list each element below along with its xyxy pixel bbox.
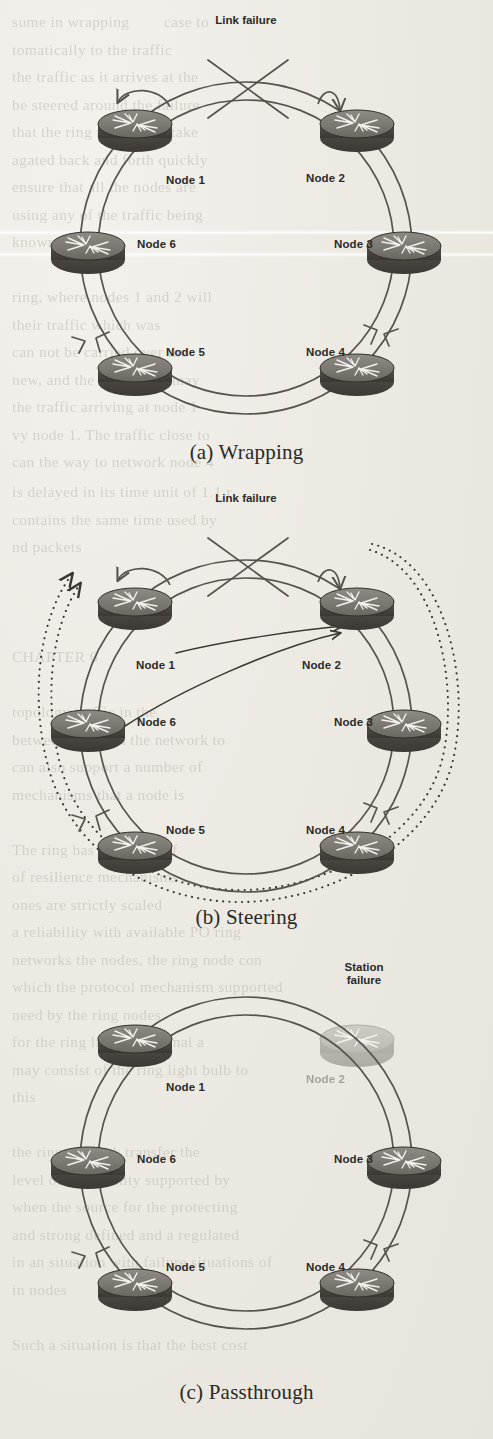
node-6-router-icon bbox=[51, 710, 125, 752]
node-1-router-icon bbox=[98, 1025, 172, 1067]
panel-steering-svg bbox=[0, 478, 493, 933]
node-label-4-a: Node 4 bbox=[306, 346, 345, 358]
caption-panel-b: (b) Steering bbox=[0, 905, 493, 930]
panel-steering: Link failure Node 1 Node 2 Node 6 Node 3… bbox=[0, 478, 493, 933]
node-2-router-icon bbox=[320, 588, 394, 630]
node-6-router-icon bbox=[51, 1147, 125, 1189]
node-label-1-a: Node 1 bbox=[166, 174, 205, 186]
node-2-router-icon-failed bbox=[320, 1025, 394, 1067]
node-5-router-icon bbox=[98, 354, 172, 396]
node-label-3-c: Node 3 bbox=[334, 1153, 373, 1165]
node-label-5-a: Node 5 bbox=[166, 346, 205, 358]
node-5-router-icon bbox=[98, 1269, 172, 1311]
panel-wrapping-svg bbox=[0, 0, 493, 470]
node-label-6-a: Node 6 bbox=[137, 238, 176, 250]
ringlet-direction-arrows bbox=[72, 325, 398, 353]
caption-panel-a: (a) Wrapping bbox=[0, 440, 493, 465]
link-failure-label-a: Link failure bbox=[183, 14, 309, 27]
node-label-2-a: Node 2 bbox=[306, 172, 345, 184]
node-4-router-icon bbox=[320, 832, 394, 874]
link-failure-cross bbox=[208, 538, 288, 596]
node-6-router-icon bbox=[51, 232, 125, 274]
node-3-router-icon bbox=[367, 1147, 441, 1189]
panel-wrapping: Link failure Node 1 Node 2 Node 6 Node 3… bbox=[0, 0, 493, 470]
node-label-6-c: Node 6 bbox=[137, 1153, 176, 1165]
node-label-4-c: Node 4 bbox=[306, 1261, 345, 1273]
panel-passthrough: Station failure Node 1 Node 2 Node 6 Nod… bbox=[0, 955, 493, 1439]
ringlet-direction-arrows bbox=[72, 1240, 398, 1268]
node-label-5-b: Node 5 bbox=[166, 824, 205, 836]
node-label-2-b: Node 2 bbox=[302, 659, 341, 671]
ringlet-direction-arrows bbox=[72, 803, 398, 831]
node-label-6-b: Node 6 bbox=[137, 716, 176, 728]
node-1-router-icon bbox=[98, 110, 172, 152]
node-3-router-icon bbox=[367, 232, 441, 274]
node-4-router-icon bbox=[320, 1269, 394, 1311]
steered-chord-arrows bbox=[122, 626, 342, 728]
node-5-router-icon bbox=[98, 832, 172, 874]
node-label-4-b: Node 4 bbox=[306, 824, 345, 836]
node-label-3-a: Node 3 bbox=[334, 238, 373, 250]
node-label-5-c: Node 5 bbox=[166, 1261, 205, 1273]
panel-passthrough-svg bbox=[0, 955, 493, 1439]
node-label-3-b: Node 3 bbox=[334, 716, 373, 728]
node-label-2-c: Node 2 bbox=[306, 1073, 345, 1085]
link-failure-label-b: Link failure bbox=[183, 492, 309, 505]
node-3-router-icon bbox=[367, 710, 441, 752]
node-4-router-icon bbox=[320, 354, 394, 396]
node-1-router-icon bbox=[98, 588, 172, 630]
caption-panel-c: (c) Passthrough bbox=[0, 1380, 493, 1405]
link-failure-cross bbox=[208, 60, 288, 118]
station-failure-label-c: Station failure bbox=[318, 961, 410, 987]
node-label-1-c: Node 1 bbox=[166, 1081, 205, 1093]
node-2-router-icon bbox=[320, 110, 394, 152]
node-label-1-b: Node 1 bbox=[136, 659, 175, 671]
